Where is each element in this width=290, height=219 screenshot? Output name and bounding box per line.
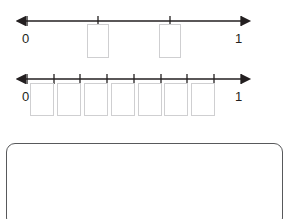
number-line-group-1: 0 1 xyxy=(0,8,290,64)
answer-box-line2-6[interactable] xyxy=(164,83,188,116)
answer-box-line2-4[interactable] xyxy=(111,83,135,116)
number-line-1-right-label: 1 xyxy=(235,32,242,45)
number-line-1-left-label: 0 xyxy=(22,32,29,45)
number-line-2-right-label: 1 xyxy=(235,90,242,103)
answer-box-line2-2[interactable] xyxy=(57,83,81,116)
worksheet-canvas: 0 1 xyxy=(0,0,290,219)
number-line-2-left-label: 0 xyxy=(22,90,29,103)
answer-box-line2-1[interactable] xyxy=(30,83,54,116)
answer-box-line1-1[interactable] xyxy=(87,24,109,58)
answer-box-line2-3[interactable] xyxy=(84,83,108,116)
answer-box-line2-7[interactable] xyxy=(191,83,215,116)
work-area[interactable] xyxy=(6,143,283,219)
answer-box-line1-2[interactable] xyxy=(159,24,181,58)
answer-box-line2-5[interactable] xyxy=(138,83,162,116)
number-line-axis-1 xyxy=(0,8,290,34)
number-line-group-2: 0 1 xyxy=(0,66,290,122)
